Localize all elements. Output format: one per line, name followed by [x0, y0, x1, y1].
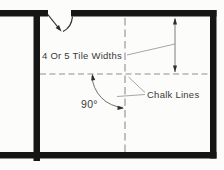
- angle-label: 90°: [81, 98, 98, 110]
- wall-top-left: [0, 10, 48, 17]
- tile-widths-label: 4 Or 5 Tile Widths: [42, 50, 122, 61]
- wall-right: [210, 10, 217, 159]
- wall-left: [34, 10, 41, 161]
- diagram-svg: 4 Or 5 Tile Widths Chalk Lines 90°: [0, 0, 224, 170]
- chalk-lines-label: Chalk Lines: [147, 89, 199, 100]
- wall-bottom: [0, 152, 217, 159]
- tile-layout-diagram: 4 Or 5 Tile Widths Chalk Lines 90°: [0, 0, 224, 170]
- wall-top-right: [71, 10, 217, 17]
